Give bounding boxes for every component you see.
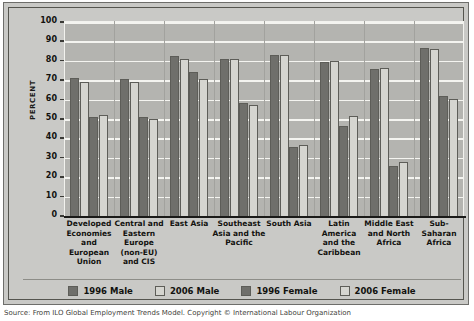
legend-item: 2006 Male: [155, 286, 220, 296]
bar: [420, 48, 429, 216]
bar: [180, 59, 189, 216]
x-axis-category-label-line: Pacific: [210, 238, 268, 248]
x-axis-category-label-line: Europe: [110, 238, 168, 248]
bar: [289, 147, 298, 216]
x-axis-category-label-line: Caribbean: [310, 248, 368, 258]
bar-group: [264, 21, 314, 216]
group-separator: [414, 21, 415, 216]
bar: [380, 68, 389, 216]
x-axis-category-label-line: Asia and the: [210, 229, 268, 239]
figure-frame-inner: PERCENT 1009080706050403020100 Developed…: [8, 7, 464, 300]
bar-group: [364, 21, 414, 216]
bar: [430, 49, 439, 216]
bar: [230, 59, 239, 216]
y-axis-tick-label: 90: [31, 36, 57, 44]
bar: [89, 117, 98, 216]
bar-group: [164, 21, 214, 216]
y-axis-tick-label: 50: [31, 114, 57, 122]
chart-screenshot: PERCENT 1009080706050403020100 Developed…: [0, 0, 474, 321]
bar: [280, 55, 289, 216]
group-separator: [164, 21, 165, 216]
x-axis-labels: DevelopedEconomiesandEuropeanUnionCentra…: [64, 219, 464, 271]
source-note: Source: From ILO Global Employment Trend…: [4, 309, 472, 318]
bar: [239, 103, 248, 216]
bar: [80, 82, 89, 216]
legend-label: 1996 Female: [256, 286, 317, 296]
y-axis-tick-label: 70: [31, 75, 57, 83]
bar: [199, 79, 208, 216]
legend-item: 1996 Male: [68, 286, 133, 296]
legend-swatch: [155, 286, 165, 296]
bar: [349, 116, 358, 216]
bar: [139, 117, 148, 216]
bar-group: [114, 21, 164, 216]
chart-legend: 1996 Male2006 Male1996 Female2006 Female: [23, 279, 461, 302]
y-axis-tick-label: 20: [31, 172, 57, 180]
bar: [99, 115, 108, 216]
figure-frame: PERCENT 1009080706050403020100 Developed…: [3, 2, 469, 305]
x-axis-category-label-line: Eastern: [110, 229, 168, 239]
bar: [270, 55, 279, 216]
bar: [299, 145, 308, 216]
bar: [399, 162, 408, 216]
bar-group: [64, 21, 114, 216]
x-axis-category-label-line: (non-EU): [110, 248, 168, 258]
bar-group: [314, 21, 364, 216]
legend-label: 2006 Male: [170, 286, 220, 296]
bar: [189, 72, 198, 216]
bar: [120, 79, 129, 216]
y-axis-tick-label: 0: [31, 211, 57, 219]
legend-swatch: [340, 286, 350, 296]
bar-group: [414, 21, 464, 216]
y-axis-tick-label: 10: [31, 192, 57, 200]
bar: [389, 166, 398, 216]
y-axis-tick-label: 30: [31, 153, 57, 161]
legend-item: 2006 Female: [340, 286, 416, 296]
bar: [370, 69, 379, 216]
group-separator: [314, 21, 315, 216]
group-separator: [264, 21, 265, 216]
bar: [130, 82, 139, 216]
bar: [439, 96, 448, 216]
y-axis-tick-label: 100: [31, 17, 57, 25]
legend-label: 2006 Female: [355, 286, 416, 296]
group-separator: [214, 21, 215, 216]
bar: [330, 61, 339, 216]
legend-item: 1996 Female: [241, 286, 317, 296]
x-axis-category-label-line: and CIS: [110, 257, 168, 267]
bar: [70, 78, 79, 216]
legend-label: 1996 Male: [83, 286, 133, 296]
y-axis-tick-label: 60: [31, 95, 57, 103]
bar: [220, 59, 229, 216]
x-axis-baseline: [64, 216, 466, 218]
bar: [320, 62, 329, 216]
bar: [170, 56, 179, 216]
group-separator: [114, 21, 115, 216]
x-axis-category-label-line: Saharan: [410, 229, 468, 239]
bar: [449, 99, 458, 216]
y-axis-tick-label: 40: [31, 133, 57, 141]
legend-swatch: [68, 286, 78, 296]
bar-group: [214, 21, 264, 216]
group-separator: [364, 21, 365, 216]
bar: [339, 126, 348, 216]
y-axis-tick-label: 80: [31, 56, 57, 64]
bars-layer: [64, 21, 464, 216]
bar: [249, 105, 258, 216]
legend-swatch: [241, 286, 251, 296]
bar: [149, 119, 158, 216]
x-axis-category-label-line: Africa: [410, 238, 468, 248]
x-axis-category-label: Sub-SaharanAfrica: [410, 219, 468, 248]
x-axis-category-label-line: Sub-: [410, 219, 468, 229]
